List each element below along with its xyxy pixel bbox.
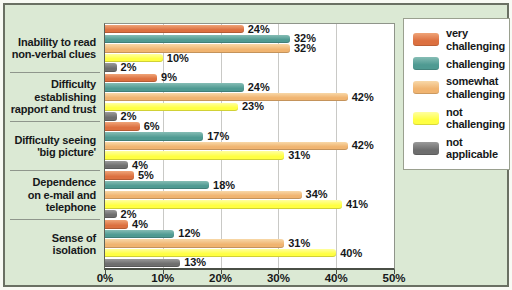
bar-not-applicable — [105, 161, 128, 170]
x-tick-label: 30% — [256, 272, 300, 284]
legend-swatch-somewhat-challenging — [413, 81, 439, 94]
bar-line: 40% — [105, 249, 394, 258]
legend-label: notapplicable — [446, 136, 498, 161]
legend-label-line: not — [446, 106, 505, 119]
value-label: 42% — [352, 141, 374, 150]
category-label-line: Dependence — [10, 176, 96, 189]
value-label: 42% — [352, 93, 374, 102]
value-label: 18% — [213, 181, 235, 190]
chart-screen: Inability to readnon-verbal cluesDifficu… — [0, 0, 512, 290]
bar-line: 17% — [105, 132, 394, 141]
bar-challenging — [105, 35, 290, 44]
value-label: 40% — [340, 249, 362, 258]
bar-very-challenging — [105, 220, 128, 229]
category-label-line: isolation — [10, 244, 96, 257]
legend-label-line: very — [446, 27, 505, 40]
value-label: 12% — [178, 229, 200, 238]
bar-line: 6% — [105, 122, 394, 131]
bar-very-challenging — [105, 122, 140, 131]
legend-label-line: challenging — [446, 40, 505, 53]
bar-very-challenging — [105, 171, 134, 180]
value-label: 9% — [161, 73, 177, 82]
bar-not-applicable — [105, 259, 180, 268]
bar-somewhat-challenging — [105, 44, 290, 53]
value-label: 2% — [121, 112, 137, 121]
legend-swatch-not-applicable — [413, 142, 439, 155]
value-label: 24% — [248, 83, 270, 92]
bar-very-challenging — [105, 74, 157, 83]
legend-item-challenging: challenging — [413, 57, 507, 70]
value-label: 32% — [294, 44, 316, 53]
value-label: 2% — [121, 63, 137, 72]
legend-item-not-applicable: notapplicable — [413, 136, 507, 161]
bar-somewhat-challenging — [105, 191, 302, 200]
bar-somewhat-challenging — [105, 93, 348, 102]
bar-line: 13% — [105, 258, 394, 267]
value-label: 23% — [242, 102, 264, 111]
legend-item-very-challenging: verychallenging — [413, 27, 507, 52]
bar-line: 18% — [105, 181, 394, 190]
legend-label-line: applicable — [446, 148, 498, 161]
legend-swatch-very-challenging — [413, 33, 439, 46]
category-row-dependence-on-e-mail-and-telephone: 5%18%34%41%2% — [105, 170, 394, 219]
bar-not-applicable — [105, 210, 117, 219]
plot-area: 24%32%32%10%2%9%24%42%23%2%6%17%42%31%4%… — [104, 23, 395, 270]
value-label: 10% — [167, 54, 189, 63]
x-tick-label: 10% — [141, 272, 185, 284]
value-label: 34% — [306, 190, 328, 199]
legend-label-line: challenging — [446, 58, 505, 71]
category-label-line: non-verbal clues — [10, 48, 96, 61]
bar-line: 32% — [105, 44, 394, 53]
legend-label-line: challenging — [446, 88, 505, 101]
category-label: Sense ofisolation — [10, 219, 100, 268]
x-tick-label: 50% — [372, 272, 416, 284]
value-label: 31% — [288, 239, 310, 248]
bar-line: 24% — [105, 25, 394, 34]
category-label-line: rapport and trust — [10, 103, 96, 116]
bar-not-applicable — [105, 112, 117, 121]
legend-label: notchallenging — [446, 106, 505, 131]
chart-panel: Inability to readnon-verbal cluesDifficu… — [3, 3, 509, 287]
category-label-line: on e-mail and — [10, 189, 96, 202]
legend-label-line: somewhat — [446, 75, 505, 88]
category-label-line: Inability to read — [10, 36, 96, 49]
legend-label: challenging — [446, 58, 505, 71]
value-label: 4% — [132, 220, 148, 229]
bar-line: 2% — [105, 210, 394, 219]
value-label: 17% — [207, 132, 229, 141]
category-row-difficulty-seeing-big-picture-: 6%17%42%31%4% — [105, 122, 394, 171]
bar-not-challenging — [105, 249, 336, 258]
bar-line: 41% — [105, 200, 394, 209]
value-label: 41% — [346, 200, 368, 209]
bar-line: 31% — [105, 151, 394, 160]
bar-somewhat-challenging — [105, 239, 284, 248]
x-tick-label: 0% — [83, 272, 127, 284]
bar-line: 2% — [105, 63, 394, 72]
bar-line: 12% — [105, 229, 394, 238]
legend: verychallengingchallengingsomewhatchalle… — [403, 18, 510, 170]
bar-challenging — [105, 132, 203, 141]
value-label: 13% — [184, 258, 206, 267]
bar-line: 42% — [105, 141, 394, 150]
legend-item-somewhat-challenging: somewhatchallenging — [413, 75, 507, 100]
bar-very-challenging — [105, 25, 244, 34]
category-label-line: establishing — [10, 91, 96, 104]
bar-challenging — [105, 181, 209, 190]
bar-not-applicable — [105, 63, 117, 72]
bar-line: 5% — [105, 171, 394, 180]
category-label-line: telephone — [10, 201, 96, 214]
value-label: 31% — [288, 151, 310, 160]
category-row-sense-of-isolation: 4%12%31%40%13% — [105, 219, 394, 268]
category-label-line: 'big picture' — [10, 146, 96, 159]
category-label: Dependenceon e-mail andtelephone — [10, 170, 100, 219]
bar-line: 32% — [105, 34, 394, 43]
x-tick-label: 40% — [314, 272, 358, 284]
category-axis: Inability to readnon-verbal cluesDifficu… — [10, 24, 100, 268]
category-row-inability-to-read-non-verbal-clues: 24%32%32%10%2% — [105, 24, 394, 73]
bar-rows: 24%32%32%10%2%9%24%42%23%2%6%17%42%31%4%… — [105, 24, 394, 268]
category-label: Inability to readnon-verbal clues — [10, 24, 100, 72]
category-label: Difficulty seeing'big picture' — [10, 121, 100, 170]
legend-swatch-not-challenging — [413, 112, 439, 125]
x-tick-label: 20% — [199, 272, 243, 284]
value-label: 5% — [138, 171, 154, 180]
